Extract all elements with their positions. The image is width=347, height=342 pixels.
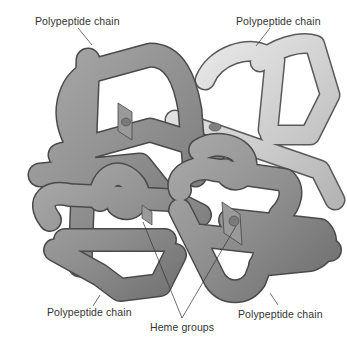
hemoglobin-diagram: Polypeptide chain Polypeptide chain Poly… xyxy=(0,0,347,342)
protein-illustration xyxy=(0,0,347,342)
label-polypeptide-chain-bottom-right: Polypeptide chain xyxy=(238,308,323,320)
label-polypeptide-chain-top-left: Polypeptide chain xyxy=(35,15,120,27)
label-polypeptide-chain-top-right: Polypeptide chain xyxy=(236,15,321,27)
heme-group-2 xyxy=(209,123,221,131)
label-polypeptide-chain-bottom-left: Polypeptide chain xyxy=(47,306,132,318)
label-heme-groups: Heme groups xyxy=(150,321,214,333)
